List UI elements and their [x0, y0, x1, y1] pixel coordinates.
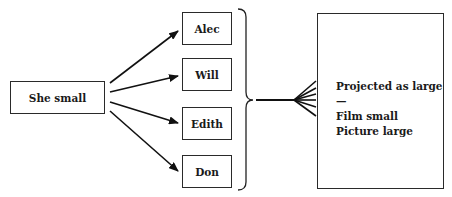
result-line: Projected as large—	[336, 79, 443, 109]
result-line: Picture large	[336, 124, 443, 139]
target-box-edith: Edith	[182, 107, 232, 140]
result-box: Projected as large— Film small Picture l…	[317, 13, 444, 189]
target-box-don: Don	[182, 155, 232, 188]
result-line: Film small	[336, 109, 443, 124]
result-text: Projected as large— Film small Picture l…	[336, 79, 443, 139]
source-label: She small	[29, 92, 86, 104]
fan-lines	[294, 81, 316, 116]
target-label: Alec	[194, 23, 219, 35]
target-label: Don	[195, 166, 219, 178]
arrow-to-will	[110, 76, 178, 92]
target-label: Edith	[191, 118, 223, 130]
arrow-to-alec	[110, 31, 178, 83]
target-label: Will	[195, 69, 219, 81]
target-box-alec: Alec	[182, 12, 232, 45]
target-box-will: Will	[182, 58, 232, 91]
curly-brace	[238, 9, 253, 190]
source-box: She small	[10, 81, 105, 114]
